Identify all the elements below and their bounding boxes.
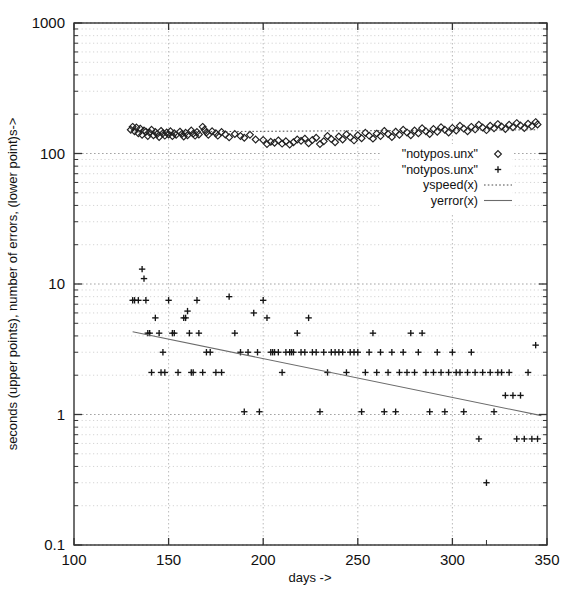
legend: "notypos.unx""notypos.unx"yspeed(x)yerro… <box>380 144 512 214</box>
x-tick-label: 300 <box>440 551 465 568</box>
legend-label: "notypos.unx" <box>402 147 478 161</box>
y-tick-label: 1000 <box>32 14 65 31</box>
legend-label: "notypos.unx" <box>402 163 478 177</box>
x-tick-label: 350 <box>534 551 559 568</box>
y-axis-title: seconds (upper points), number of errors… <box>5 118 20 451</box>
y-tick-label: 100 <box>40 145 65 162</box>
y-tick-label: 1 <box>57 406 65 423</box>
log-scatter-plot: 100150200250300350 0.11101001000 days ->… <box>0 0 572 602</box>
chart-background <box>0 0 572 602</box>
legend-label: yspeed(x) <box>423 178 478 192</box>
x-tick-label: 100 <box>61 551 86 568</box>
chart-figure: 100150200250300350 0.11101001000 days ->… <box>0 0 572 602</box>
x-tick-label: 150 <box>156 551 181 568</box>
y-tick-label: 0.1 <box>44 536 65 553</box>
legend-label: yerror(x) <box>431 194 478 208</box>
x-axis-title: days -> <box>289 570 332 585</box>
x-tick-label: 250 <box>345 551 370 568</box>
x-tick-label: 200 <box>251 551 276 568</box>
y-tick-label: 10 <box>48 275 65 292</box>
